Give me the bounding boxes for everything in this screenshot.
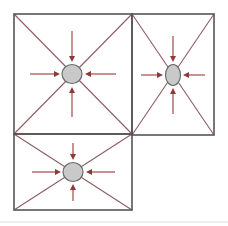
node-cell-bottom-left [63,163,83,182]
node-cell-right [166,65,181,86]
node-cell-top-left [62,65,82,84]
figure-root [0,0,228,226]
diagram-canvas [0,0,228,226]
